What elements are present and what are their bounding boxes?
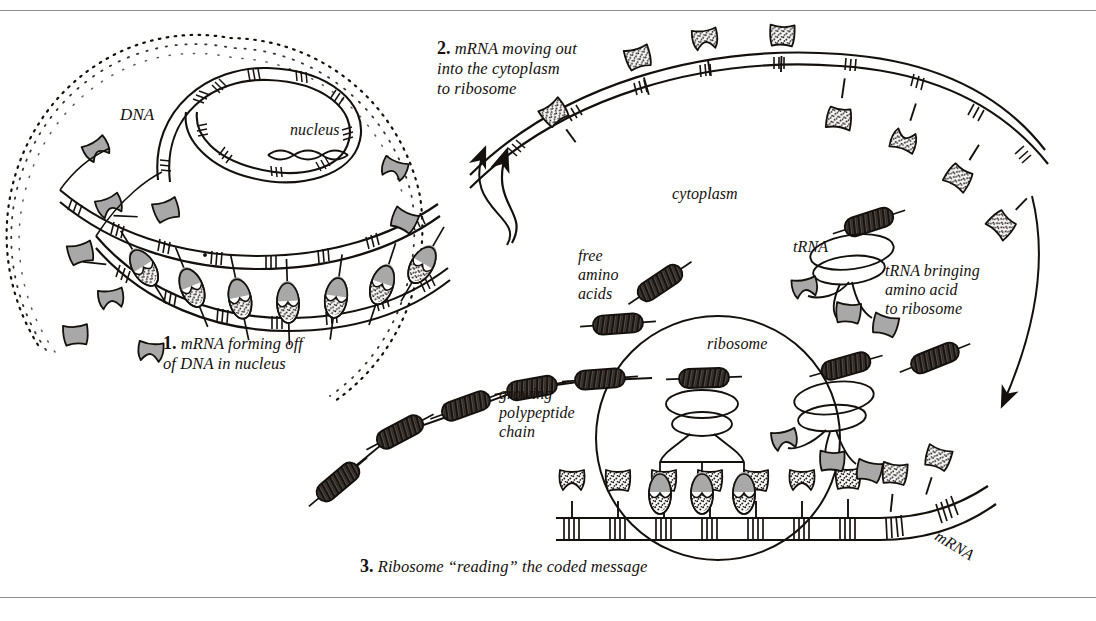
trna-docked — [649, 367, 755, 514]
step-1-text: mRNA forming off of DNA in nucleus — [163, 334, 303, 373]
chromatin-squiggle — [268, 151, 348, 160]
amino-acid — [579, 312, 656, 336]
ribosome-label: ribosome — [707, 335, 767, 354]
dna-label: DNA — [120, 105, 154, 125]
mrna-codon-bases — [559, 444, 952, 519]
step-3-text: Ribosome “reading” the coded message — [373, 557, 647, 576]
step-2-text: mRNA moving out into the cytoplasm to ri… — [437, 39, 577, 98]
step-3-number: 3. — [360, 556, 373, 576]
trna-arriving — [770, 346, 885, 483]
step-1-number: 1. — [163, 333, 176, 353]
trna-label: tRNA — [793, 238, 828, 257]
step-2-number: 2. — [437, 38, 450, 58]
nucleus-label: nucleus — [290, 121, 340, 140]
step-3-caption: 3. Ribosome “reading” the coded message — [360, 556, 647, 577]
step-1-caption: 1. mRNA forming off of DNA in nucleus — [163, 333, 303, 374]
polypeptide-chain — [303, 367, 652, 514]
protein-synthesis-figure: 1. mRNA forming off of DNA in nucleus 2.… — [0, 0, 1096, 621]
mrna-reading-strand — [556, 444, 996, 540]
amino-acid — [896, 335, 974, 381]
amino-acid — [623, 254, 697, 312]
growing-polypeptide-label: growing polypeptide chain — [499, 385, 575, 442]
cytoplasm-label: cytoplasm — [672, 185, 738, 204]
free-amino-acids-label: free amino acids — [578, 247, 619, 304]
trna-bringing-label: tRNA bringing amino acid to ribosome — [885, 262, 980, 319]
step-2-caption: 2. mRNA moving out into the cytoplasm to… — [437, 38, 577, 98]
